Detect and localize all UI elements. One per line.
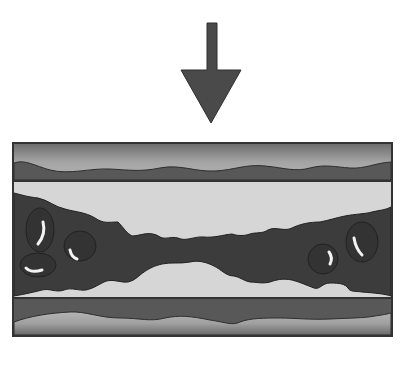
blood-vessel bbox=[13, 143, 392, 336]
down-arrow-icon bbox=[181, 23, 241, 123]
vessel-wall-top bbox=[14, 144, 391, 181]
vessel-wall-bottom bbox=[14, 298, 391, 335]
diagram-canvas bbox=[0, 0, 416, 370]
vessel-diagram bbox=[0, 0, 416, 370]
